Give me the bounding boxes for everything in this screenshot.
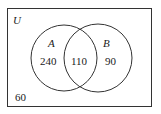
set-b-only-count: 90 xyxy=(105,55,117,67)
venn-diagram: U A B 240 110 90 60 xyxy=(0,0,161,114)
outside-count: 60 xyxy=(15,91,27,103)
universe-label: U xyxy=(13,14,22,26)
set-a-label: A xyxy=(47,37,55,49)
set-a-only-count: 240 xyxy=(40,55,57,67)
set-b-label: B xyxy=(103,37,110,49)
intersection-count: 110 xyxy=(71,55,88,67)
